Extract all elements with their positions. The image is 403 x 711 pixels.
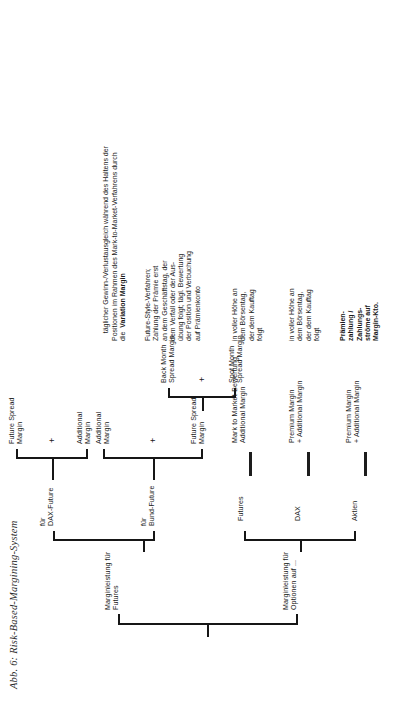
aktien-result-rule [364, 452, 367, 476]
term-dax-future-spread-margin: Future Spread Margin [8, 397, 25, 444]
note-cell-dax: in voller Höhe an dem Börsentag, der dem… [231, 288, 264, 341]
dax-future-connector [52, 458, 54, 480]
futures-result-rule [249, 452, 252, 476]
term-bund-future-spread-margin: Future Spread Margin [190, 397, 207, 444]
futures-spine-cap-top [53, 531, 55, 541]
variation-margin-emphasis: Variation Margin [119, 273, 126, 327]
options-spine-stub [300, 540, 302, 552]
futures-spine-stub [143, 540, 145, 552]
node-label-futures: Futures [237, 496, 245, 521]
root-stub [207, 624, 209, 637]
note-cell-options-premium: Future-Style-Verfahren; Zahlung der Präm… [144, 251, 202, 341]
node-label-dax: DAX [294, 506, 302, 521]
result-dax: Premium Margin + Additional Margin [288, 381, 305, 443]
spread-margin-spine [168, 396, 236, 398]
branch-label-futures: Marginleistung für Futures [104, 552, 121, 610]
root-spine-cap-top [118, 614, 120, 625]
root-spine-cap-bottom [296, 614, 298, 625]
options-spine-cap-bottom [354, 531, 356, 541]
operator-plus-bund-future: + [148, 438, 159, 443]
node-label-aktien: Aktien [351, 501, 359, 521]
figure-caption: Abb. 6: Risk-Based-Margining-System [8, 521, 20, 689]
dax-future-terms-cap-bottom [86, 449, 88, 459]
note-variation-margin-text: täglicher Gewinn-/Verlustausgleich währe… [102, 146, 126, 341]
futures-spine [53, 539, 155, 541]
notes-row-label: Prämien- zahlung / Zahlungs- ströme auf … [339, 302, 380, 341]
dax-future-terms-spine [16, 457, 88, 459]
dax-future-terms-cap-top [16, 449, 18, 459]
operator-plus-dax-future: + [47, 438, 58, 443]
note-cell-aktien: in voller Höhe an dem Börsentag, der dem… [288, 288, 321, 341]
options-spine-cap-top [244, 531, 246, 541]
spread-margin-connector [202, 397, 204, 411]
dax-result-rule [307, 452, 310, 476]
branch-label-dax-future: für DAX-Future [39, 488, 56, 526]
term-bund-additional-margin: Additional Margin [95, 412, 112, 444]
note-cell-variation-margin: täglicher Gewinn-/Verlustausgleich währe… [94, 146, 135, 341]
figure-canvas: Abb. 6: Risk-Based-Margining-System Marg… [0, 0, 403, 711]
result-aktien: Premium Margin + Additional Margin [345, 381, 362, 443]
result-futures: Mark to Market-Bewertung Additional Marg… [231, 357, 248, 443]
branch-label-bund-future: für Bund-Future [140, 485, 157, 526]
operator-plus-spread-margin: + [197, 377, 208, 382]
term-back-month-spread-margin: Back Month Spread Margin [160, 335, 177, 383]
bund-future-connector [153, 458, 155, 480]
spread-margin-cap-top [168, 388, 170, 398]
branch-label-options: Marginleistung für Optionen auf ... [282, 552, 299, 610]
futures-spine-cap-bottom [153, 531, 155, 541]
bund-future-terms-spine [103, 457, 203, 459]
bund-future-terms-cap-top [103, 449, 105, 459]
bund-future-terms-cap-bottom [201, 449, 203, 459]
term-dax-additional-margin: Additional Margin [76, 412, 93, 444]
